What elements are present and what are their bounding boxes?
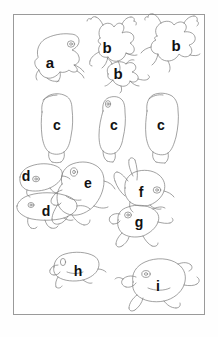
label-h: h [74, 264, 83, 278]
label-c2: c [110, 118, 118, 132]
label-b1: b [102, 40, 111, 55]
label-c1: c [53, 118, 61, 132]
label-b2: b [171, 38, 180, 53]
label-i: i [156, 279, 160, 293]
label-g: g [135, 215, 144, 229]
label-e: e [84, 176, 92, 190]
plate-border-frame [13, 14, 205, 315]
label-b3: b [113, 66, 122, 81]
figure-plate: abbbcccdefdghi [0, 0, 218, 337]
label-d2: d [42, 204, 51, 218]
label-c3: c [157, 118, 165, 132]
label-f: f [139, 185, 144, 199]
label-a: a [46, 55, 54, 70]
label-d1: d [22, 169, 31, 183]
